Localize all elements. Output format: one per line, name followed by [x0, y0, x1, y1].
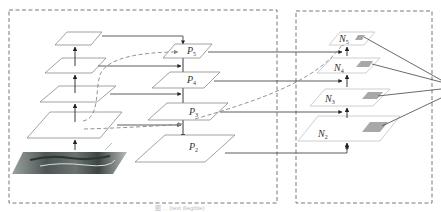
augmented-plane-n5: [329, 32, 375, 45]
fpn-plane-p3: [148, 103, 228, 120]
backbone-planes: [27, 32, 122, 138]
backbone-plane-c3: [40, 86, 116, 102]
backbone-plane-c4: [45, 58, 106, 73]
augmented-plane-n2: [298, 116, 400, 141]
figure-caption: 图 ... (text illegible): [155, 205, 205, 212]
backbone-plane-c5: [55, 32, 102, 45]
fpn-planes: [135, 44, 235, 162]
fpn-diagram: P5 P4 P3 P2 N5 N4 N3: [0, 0, 441, 212]
roi-pooling-lines: [364, 37, 441, 126]
backbone-fpn-panel: [9, 10, 277, 203]
augmented-plane-n4: [317, 58, 380, 73]
input-image: [12, 143, 127, 174]
backbone-plane-c2: [27, 112, 122, 138]
fpn-plane-p4: [152, 72, 220, 88]
fpn-plane-p2: [135, 135, 235, 162]
